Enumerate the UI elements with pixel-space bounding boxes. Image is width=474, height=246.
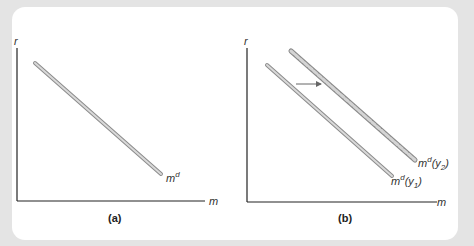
panel-b: r m md(y2) md(y1) (b) [244,35,449,224]
panel-a: r m md (a) [14,35,218,224]
curve-label-y1: md(y1) [391,173,422,190]
caption-b: (b) [338,212,352,224]
caption-a: (a) [108,212,122,224]
y-axis-label-a: r [14,35,19,47]
y-axis-label-b: r [244,35,249,47]
curve-label-a: md [166,170,180,184]
curve-label-y2: md(y2) [418,155,449,172]
x-axis-label-a: m [209,195,218,207]
x-axis-label-b: m [437,196,446,208]
money-demand-curve-a [35,63,161,174]
figure-svg: r m md (a) r m md(y2) md(y1) (b) [0,0,474,246]
